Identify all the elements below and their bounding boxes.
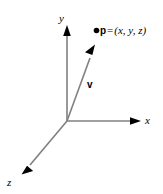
point-p-label: p=(x, y, z)	[100, 25, 146, 36]
z-axis-label: z	[7, 177, 11, 188]
x-axis-label: x	[145, 115, 150, 126]
vector-v-label: v	[87, 80, 93, 90]
y-axis-arrowhead	[63, 25, 71, 36]
z-axis-line	[30, 121, 67, 165]
x-axis-arrowhead	[130, 117, 141, 124]
z-axis-arrowhead	[22, 166, 34, 175]
y-axis-label: y	[59, 13, 64, 24]
vector-v-arrowhead	[85, 45, 95, 56]
vector-diagram-figure: y x z v p=(x, y, z)	[0, 0, 163, 194]
point-p-coordinates: (x, y, z)	[114, 24, 146, 36]
point-p-dot	[94, 28, 100, 34]
